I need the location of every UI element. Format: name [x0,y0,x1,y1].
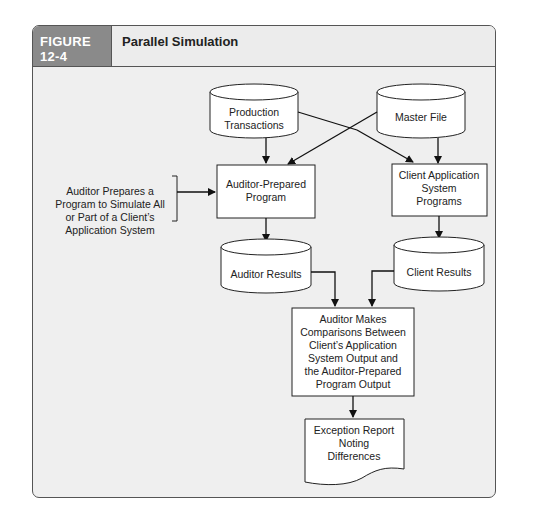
client-programs-line-3: Programs [416,195,462,207]
client-application-programs-box: Client Application System Programs [392,164,487,216]
client-programs-line-2: System [421,182,456,194]
exception-report-document: Exception Report Noting Differences [305,419,404,485]
annotation-line-1: Auditor Prepares a [66,185,154,197]
flow-diagram: Production Transactions Master File Audi… [0,0,546,525]
client-programs-line-1: Client Application [399,169,480,181]
edge-client-results-to-comparison [372,271,394,306]
annotation-line-4: Application System [65,224,155,236]
auditor-prepared-program-box: Auditor-Prepared Program [217,165,315,218]
comparison-line-5: the Auditor-Prepared [305,365,402,377]
comparison-process-box: Auditor Makes Comparisons Between Client… [292,308,414,396]
annotation-line-2: Program to Simulate All [55,198,165,210]
comparison-line-4: System Output and [308,352,398,364]
annotation-bracket [172,176,177,221]
master-file-label: Master File [395,111,447,123]
production-transactions-line-1: Production [229,106,279,118]
production-transactions-database: Production Transactions [210,84,298,138]
auditor-program-line-1: Auditor-Prepared [226,178,306,190]
client-results-database: Client Results [394,237,484,291]
comparison-line-6: Program Output [316,378,391,390]
exception-report-line-1: Exception Report [314,424,395,436]
auditor-results-database: Auditor Results [221,239,311,293]
client-results-label: Client Results [407,266,472,278]
edge-master-to-auditor [288,112,377,164]
auditor-results-label: Auditor Results [230,268,301,280]
comparison-line-2: Comparisons Between [300,326,406,338]
exception-report-line-2: Noting [339,437,370,449]
comparison-line-3: Client’s Application [309,339,397,351]
auditor-program-line-2: Program [246,191,287,203]
annotation-auditor-prepares: Auditor Prepares a Program to Simulate A… [55,176,215,236]
production-transactions-line-2: Transactions [224,119,284,131]
exception-report-line-3: Differences [328,450,381,462]
comparison-line-1: Auditor Makes [319,313,386,325]
edge-production-to-client [298,112,357,130]
annotation-line-3: or Part of a Client’s [65,211,154,223]
edge-auditor-results-to-comparison [311,272,335,306]
master-file-database: Master File [377,84,465,138]
